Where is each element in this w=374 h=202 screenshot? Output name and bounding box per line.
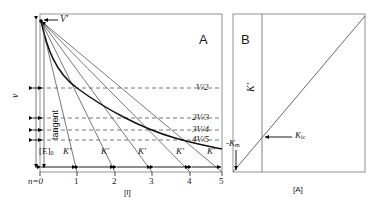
v-prime-pointer [39, 19, 58, 23]
xtick-label-1: 1 [74, 177, 79, 186]
panel-b-letter: B [241, 33, 250, 46]
km-label-sub: m [235, 142, 240, 148]
panel-a-level-markers [33, 88, 42, 140]
figure-container: A B V' v tangent [E]0 K' K' K' K' K' V/2… [0, 0, 374, 202]
enzyme-label-text: [E] [39, 146, 51, 156]
level-label-4v-5: 4V/5 [192, 135, 209, 144]
level-label-v-half: V/2 [196, 83, 209, 92]
k-segment-label-4: K' [176, 147, 184, 156]
enzyme-concentration-label: [E]0 [39, 147, 54, 156]
panel-a-xticks [40, 172, 222, 176]
k-segment-label-1: K' [63, 147, 71, 156]
v-prime-label: V' [60, 14, 68, 24]
tangent-label: tangent [51, 110, 60, 140]
level-label-3v-4: 3V/4 [192, 125, 209, 134]
level-label-2v-3: 2V/3 [192, 113, 209, 122]
xtick-label-n0: n=0 [28, 177, 43, 186]
kic-label-sub: ic [301, 134, 305, 140]
km-label-text: -K [226, 138, 235, 148]
panel-a-letter: A [199, 33, 208, 46]
figure-svg [0, 0, 374, 202]
k-segment-label-3: K' [138, 147, 146, 156]
km-label: -Km [226, 139, 240, 148]
enzyme-label-sub: 0 [51, 150, 54, 156]
k-segment-label-2: K' [101, 147, 109, 156]
xtick-label-4: 4 [187, 177, 192, 186]
panel-b-x-axis-label: [A] [293, 186, 303, 194]
panel-a-x-axis-label: [I] [124, 189, 131, 197]
panel-b-y-axis-label: K' [246, 83, 256, 92]
xtick-label-2: 2 [112, 177, 117, 186]
xtick-label-3: 3 [149, 177, 154, 186]
xtick-label-5: 5 [219, 177, 224, 186]
panel-b-replot-line [233, 16, 365, 172]
panel-a-y-axis-label: v [10, 94, 20, 98]
kic-label: Kic [295, 131, 305, 140]
k-segment-label-5: K' [207, 147, 215, 156]
